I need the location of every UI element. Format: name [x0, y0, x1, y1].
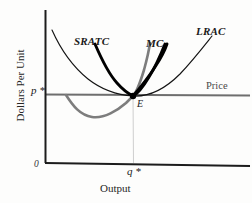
curve-label-sratc: SRATC: [74, 36, 109, 47]
x-axis-title: Output: [100, 183, 131, 194]
x-axis-tick-label-q-star: q *: [127, 166, 141, 177]
equilibrium-dropline: [133, 96, 134, 163]
equilibrium-point-label: E: [137, 99, 143, 109]
origin-label: 0: [34, 160, 39, 170]
equilibrium-point: [130, 93, 136, 99]
economics-cost-curve-figure: SRATC MC LRAC E Price p * q * 0 Output D…: [0, 0, 252, 203]
curve-label-lrac: LRAC: [196, 26, 226, 37]
x-axis: [45, 163, 250, 166]
y-axis-title: Dollars Per Unit: [15, 40, 26, 132]
price-line-label: Price: [206, 81, 228, 92]
curve-label-mc: MC: [146, 38, 164, 49]
y-axis-tick-label-p-star: p *: [31, 85, 45, 96]
